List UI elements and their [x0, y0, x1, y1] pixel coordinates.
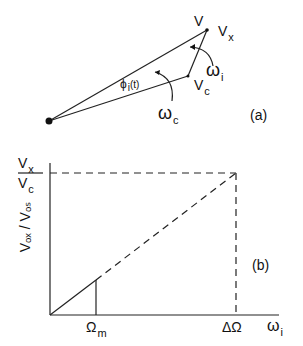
label-vx: Vx [218, 24, 234, 38]
origin-dot [46, 118, 53, 125]
interferer-phasor-line [188, 30, 207, 76]
label-omega-c: ωc [158, 104, 179, 122]
x-tick-omega-m: Ωm [86, 320, 107, 334]
label-omega-i: ωi [206, 61, 224, 79]
omega-c-arrow [155, 72, 172, 101]
x-axis-label: ωi [267, 318, 283, 334]
solid-response-line [50, 280, 96, 315]
resultant-phasor-line [49, 30, 207, 121]
label-v: V [194, 14, 203, 28]
figure-b-label: (b) [252, 258, 269, 272]
label-phi-i: ϕi(t) [120, 78, 139, 90]
dashed-response-line [96, 173, 236, 280]
diagram-lines [0, 0, 303, 346]
y-axis-label: Vₒₓ / Vₒₛ [18, 182, 32, 272]
x-tick-delta-omega: ΔΩ [222, 320, 242, 334]
label-vc: Vc [194, 78, 210, 92]
y-tick-numerator: Vx [18, 156, 34, 170]
figure-a-label: (a) [250, 108, 267, 122]
